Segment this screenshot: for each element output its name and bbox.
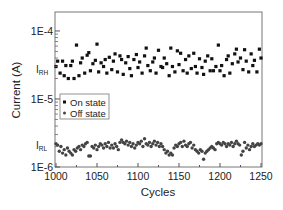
legend-marker-square	[63, 101, 66, 104]
data-point	[236, 60, 239, 63]
data-point	[153, 56, 156, 59]
data-point	[238, 143, 241, 146]
data-point	[66, 146, 69, 149]
data-point	[161, 145, 164, 148]
data-point	[255, 70, 258, 73]
data-point	[79, 61, 82, 64]
data-point	[116, 70, 119, 73]
data-point	[71, 153, 74, 156]
data-point	[136, 66, 139, 69]
data-point	[149, 69, 152, 72]
data-point	[91, 62, 94, 65]
data-point	[108, 146, 111, 149]
data-point	[247, 70, 250, 73]
data-point	[248, 148, 251, 151]
data-point	[198, 57, 201, 60]
data-point	[64, 153, 67, 156]
data-point	[179, 141, 182, 144]
data-point	[243, 48, 246, 51]
data-point	[95, 148, 98, 151]
data-point	[122, 73, 125, 76]
y-annotation-label: IRH	[36, 64, 48, 76]
data-point	[58, 150, 61, 153]
data-point	[143, 54, 146, 57]
y-tick-label: 1E-5	[31, 93, 53, 105]
data-point	[218, 69, 221, 72]
data-point	[197, 151, 200, 154]
data-point	[192, 52, 195, 55]
data-point	[186, 72, 189, 75]
data-point	[100, 143, 103, 146]
data-point	[181, 145, 184, 148]
data-point	[145, 46, 148, 49]
data-point	[253, 59, 256, 62]
data-point	[235, 48, 238, 51]
data-point	[115, 145, 118, 148]
data-point	[81, 56, 84, 59]
data-point	[239, 56, 242, 59]
data-point	[171, 153, 174, 156]
data-point	[83, 72, 86, 75]
data-point	[67, 77, 70, 80]
series-on-state	[54, 43, 262, 81]
data-point	[59, 145, 62, 148]
data-point	[128, 141, 131, 144]
data-point	[125, 139, 128, 142]
data-point	[110, 68, 113, 71]
data-point	[230, 141, 233, 144]
data-point	[143, 137, 146, 140]
data-point	[241, 150, 244, 153]
data-point	[62, 148, 65, 151]
data-point	[213, 148, 216, 151]
data-point	[146, 64, 149, 67]
data-point	[189, 141, 192, 144]
data-point	[153, 139, 156, 142]
data-point	[95, 43, 98, 46]
y-annotation-label: IRL	[36, 140, 47, 152]
x-tick-label: 1050	[85, 170, 109, 182]
data-point	[202, 73, 205, 76]
data-point	[61, 60, 64, 63]
data-point	[108, 56, 111, 59]
data-point	[77, 74, 80, 77]
data-point	[75, 43, 78, 46]
data-point	[171, 65, 174, 68]
series-off-state	[54, 137, 262, 161]
data-point	[64, 64, 67, 67]
data-point	[138, 60, 141, 63]
y-tick-label: 1E-4	[31, 25, 53, 37]
data-point	[112, 146, 115, 149]
data-point	[177, 63, 180, 66]
data-point	[227, 54, 230, 57]
data-point	[194, 65, 197, 68]
data-point	[259, 142, 262, 145]
data-point	[246, 143, 249, 146]
data-point	[223, 74, 226, 77]
data-point	[156, 141, 159, 144]
legend: On stateOff state	[60, 94, 109, 119]
data-point	[176, 49, 179, 52]
data-point	[105, 72, 108, 75]
data-point	[225, 58, 228, 61]
data-point	[110, 143, 113, 146]
data-point	[69, 64, 72, 67]
data-point	[245, 60, 248, 63]
data-point	[214, 65, 217, 68]
data-point	[200, 150, 203, 153]
data-point	[63, 74, 66, 77]
data-point	[187, 54, 190, 57]
data-point	[233, 52, 236, 55]
data-point	[102, 65, 105, 68]
data-point	[89, 154, 92, 157]
data-point	[228, 72, 231, 75]
data-point	[243, 141, 246, 144]
data-point	[169, 46, 172, 49]
data-point	[190, 67, 193, 70]
data-point	[154, 72, 157, 75]
data-point	[161, 66, 164, 69]
data-point	[163, 148, 166, 151]
data-point	[220, 64, 223, 67]
data-point	[77, 145, 80, 148]
data-point	[105, 145, 108, 148]
data-point	[74, 150, 77, 153]
